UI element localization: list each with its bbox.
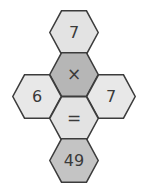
- hex-label-bottom: 49: [49, 138, 99, 183]
- equals-operator-label: =: [49, 96, 99, 141]
- hexagon-puzzle-board: 7 × 6 7 = 49: [0, 0, 148, 195]
- hex-cell-bottom[interactable]: 49: [49, 138, 99, 183]
- hex-cell-equals: =: [49, 96, 99, 141]
- hex-label-top: 7: [49, 10, 99, 55]
- hex-cell-top[interactable]: 7: [49, 10, 99, 55]
